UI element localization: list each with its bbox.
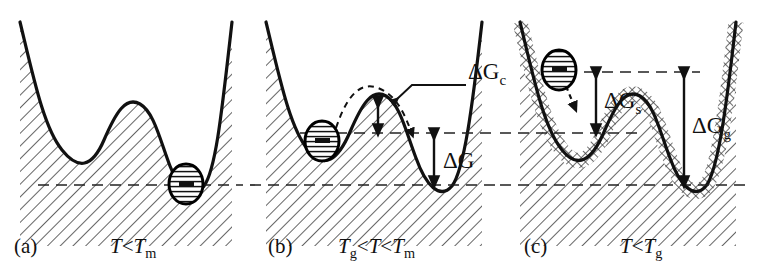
panel-b-ball <box>305 121 339 161</box>
panel-b-letter: (b) <box>268 234 293 259</box>
energy-landscape-figure: ΔGc ΔG ΔGs ΔGg (a) T<Tm (b) Tg<T<Tm (c) … <box>0 0 781 272</box>
panel-a-ball <box>169 164 203 204</box>
caption-row: (a) T<Tm (b) Tg<T<Tm (c) T<Tg <box>0 228 781 272</box>
panel-c-letter: (c) <box>524 234 547 259</box>
panel-b-condition: Tg<T<Tm <box>338 234 415 262</box>
panel-a-condition: T<Tm <box>110 234 156 262</box>
delta-g-label: ΔG <box>443 148 474 173</box>
panel-a-letter: (a) <box>14 234 37 259</box>
panel-c-ball <box>542 50 576 90</box>
panel-c-condition: T<Tg <box>620 234 662 262</box>
